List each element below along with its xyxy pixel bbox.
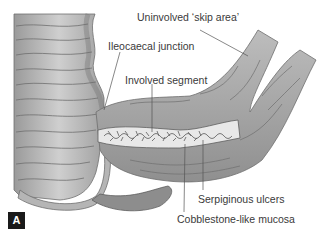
label-serpiginous-ulcers: Serpiginous ulcers <box>198 193 284 205</box>
label-ileocaecal-junction: Ileocaecal junction <box>108 40 194 52</box>
panel-label: A <box>8 212 25 229</box>
caecum <box>14 14 104 200</box>
terminal-ileum <box>96 30 316 182</box>
label-cobblestone-mucosa: Cobblestone-like mucosa <box>177 213 295 225</box>
label-involved-segment: Involved segment <box>125 74 207 86</box>
label-skip-area: Uninvolved ‘skip area’ <box>137 11 239 23</box>
